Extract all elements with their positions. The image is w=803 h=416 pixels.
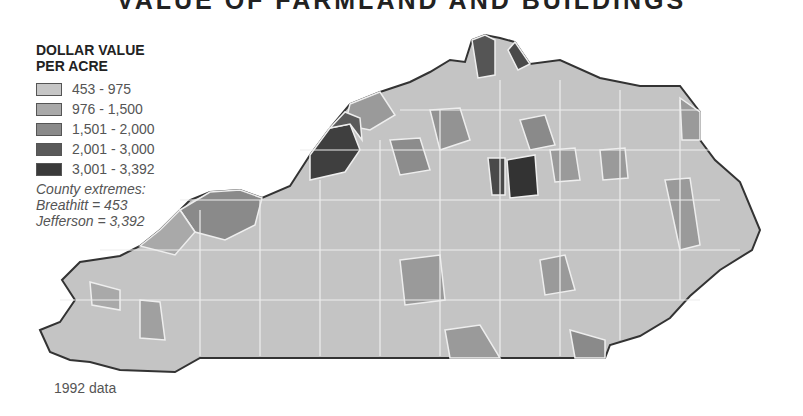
- legend-title-line1: DOLLAR VALUE: [36, 42, 155, 58]
- legend-swatch: [36, 163, 62, 176]
- legend-item: 2,001 - 3,000: [36, 139, 155, 159]
- legend-title-line2: PER ACRE: [36, 58, 155, 74]
- map-legend: DOLLAR VALUE PER ACRE 453 - 975 976 - 1,…: [36, 42, 155, 229]
- data-year-note: 1992 data: [54, 380, 116, 396]
- legend-item: 453 - 975: [36, 79, 155, 99]
- extremes-title: County extremes:: [36, 181, 155, 197]
- extreme-min: Breathitt = 453: [36, 197, 155, 213]
- legend-item: 976 - 1,500: [36, 99, 155, 119]
- legend-item: 1,501 - 2,000: [36, 119, 155, 139]
- legend-swatch: [36, 143, 62, 156]
- legend-swatch: [36, 123, 62, 136]
- legend-swatch: [36, 103, 62, 116]
- county-extremes: County extremes: Breathitt = 453 Jeffers…: [36, 181, 155, 229]
- legend-item: 3,001 - 3,392: [36, 159, 155, 179]
- extreme-max: Jefferson = 3,392: [36, 213, 155, 229]
- legend-swatch: [36, 83, 62, 96]
